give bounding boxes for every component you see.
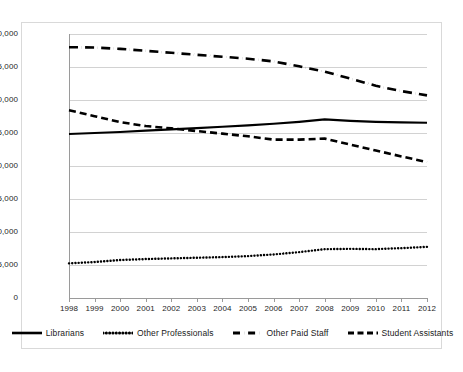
x-axis-tickmark: [197, 298, 198, 302]
chart-legend: LibrariansOther ProfessionalsOther Paid …: [22, 323, 443, 343]
x-axis-tickmark: [274, 298, 275, 302]
dashed-line-swatch: [348, 328, 378, 338]
x-axis-tickmark: [427, 298, 428, 302]
series-line-other-professionals: [69, 247, 427, 264]
x-axis-tickmark: [299, 298, 300, 302]
y-axis-tick-label: 35,000: [0, 63, 18, 71]
x-axis-tickmark: [401, 298, 402, 302]
x-axis-tickmark: [248, 298, 249, 302]
x-axis-tickmark: [69, 298, 70, 302]
series-line-student-assistants: [69, 110, 427, 162]
x-axis-tickmark: [146, 298, 147, 302]
legend-label: Other Paid Staff: [267, 328, 329, 338]
series-line-librarians: [69, 119, 427, 134]
legend-label: Other Professionals: [137, 328, 214, 338]
legend-label: Student Assistants: [382, 328, 454, 338]
y-axis-tick-label: 0: [0, 294, 18, 302]
x-axis-tickmark: [171, 298, 172, 302]
legend-item-librarians[interactable]: Librarians: [12, 328, 84, 338]
y-axis-tick-label: 40,000: [0, 30, 18, 38]
legend-item-other-paid-staff[interactable]: Other Paid Staff: [233, 328, 329, 338]
dotted-line-swatch: [103, 328, 133, 338]
y-axis-tick-label: 15,000: [0, 195, 18, 203]
y-axis-tick-label: 20,000: [0, 162, 18, 170]
legend-item-student-assistants[interactable]: Student Assistants: [348, 328, 454, 338]
x-axis-tickmark: [350, 298, 351, 302]
y-axis-tick-label: 10,000: [0, 228, 18, 236]
legend-item-other-professionals[interactable]: Other Professionals: [103, 328, 214, 338]
chart-figure: 40,00035,00030,00025,00020,00015,00010,0…: [21, 22, 442, 349]
plot-area: [69, 34, 427, 298]
legend-label: Librarians: [46, 328, 84, 338]
solid-line-swatch: [12, 328, 42, 338]
x-axis-tickmark: [376, 298, 377, 302]
series-lines: [69, 34, 427, 298]
x-axis-tickmark: [222, 298, 223, 302]
x-axis-tick-label: 2012: [412, 304, 442, 313]
x-axis-tickmark: [95, 298, 96, 302]
x-axis-tickmark: [120, 298, 121, 302]
y-axis-tick-label: 5,000: [0, 261, 18, 269]
x-axis-tickmark: [325, 298, 326, 302]
x-axis-labels: 1998199920002001200220032004200520062007…: [69, 304, 427, 316]
y-axis-labels: 40,00035,00030,00025,00020,00015,00010,0…: [0, 34, 18, 298]
series-line-other-paid-staff: [69, 47, 427, 95]
dash-dot-line-swatch: [233, 328, 263, 338]
y-axis-tick-label: 30,000: [0, 96, 18, 104]
y-axis-tick-label: 25,000: [0, 129, 18, 137]
